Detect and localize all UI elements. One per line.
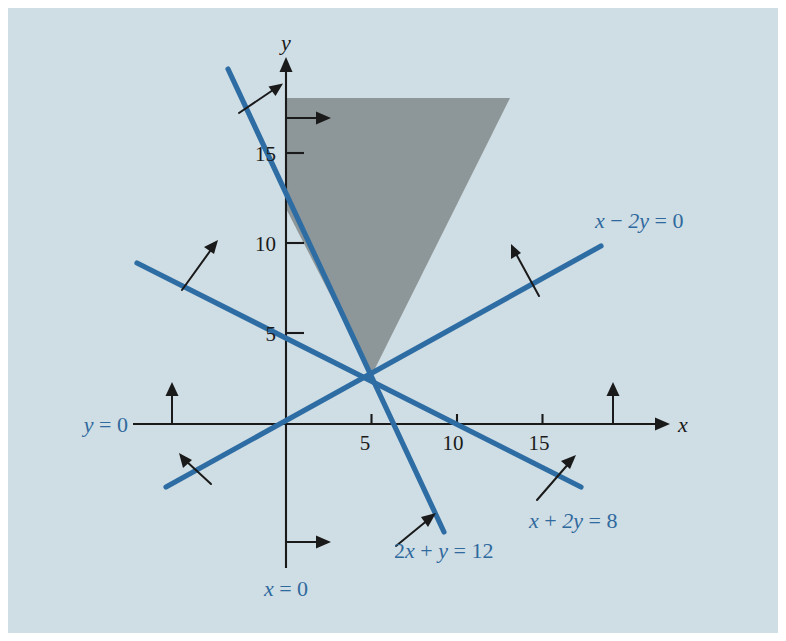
normal-arrow-y-equals-zero <box>166 382 179 424</box>
constraint-label-x-plus-2y: x + 2y = 8 <box>528 508 617 533</box>
constraint-label-y-equals-zero: y = 0 <box>82 412 128 437</box>
x-tick-label-15: 15 <box>529 431 550 455</box>
figure-root: 5 10 15 5 10 15 x y x − 2y = 0 x + 2y = … <box>0 0 786 641</box>
x-tick-label-10: 10 <box>443 431 464 455</box>
feasible-region-plot: 5 10 15 5 10 15 x y x − 2y = 0 x + 2y = … <box>0 0 786 641</box>
constraint-label-x-minus-2y: x − 2y = 0 <box>594 208 683 233</box>
normal-arrow-x-plus-2y-lower <box>537 455 576 500</box>
normal-arrow-x-equals-zero <box>286 536 331 549</box>
y-tick-label-15: 15 <box>255 142 276 166</box>
constraint-label-x-equals-zero: x = 0 <box>263 576 308 601</box>
y-tick-label-5: 5 <box>266 322 277 346</box>
constraint-label-2x-plus-y: 2x + y = 12 <box>394 538 493 563</box>
x-axis-arrowhead <box>655 418 670 431</box>
feasible-region-shading <box>286 98 510 376</box>
x-axis-label: x <box>677 412 688 437</box>
normal-arrow-y-equals-zero-right <box>607 382 620 424</box>
normal-arrow-x-plus-2y <box>182 240 218 290</box>
normal-arrow-2x-plus-y <box>239 84 283 114</box>
y-tick-label-10: 10 <box>255 232 276 256</box>
x-tick-label-5: 5 <box>360 431 371 455</box>
y-axis-arrowhead <box>280 57 293 72</box>
y-axis-label: y <box>279 30 291 55</box>
